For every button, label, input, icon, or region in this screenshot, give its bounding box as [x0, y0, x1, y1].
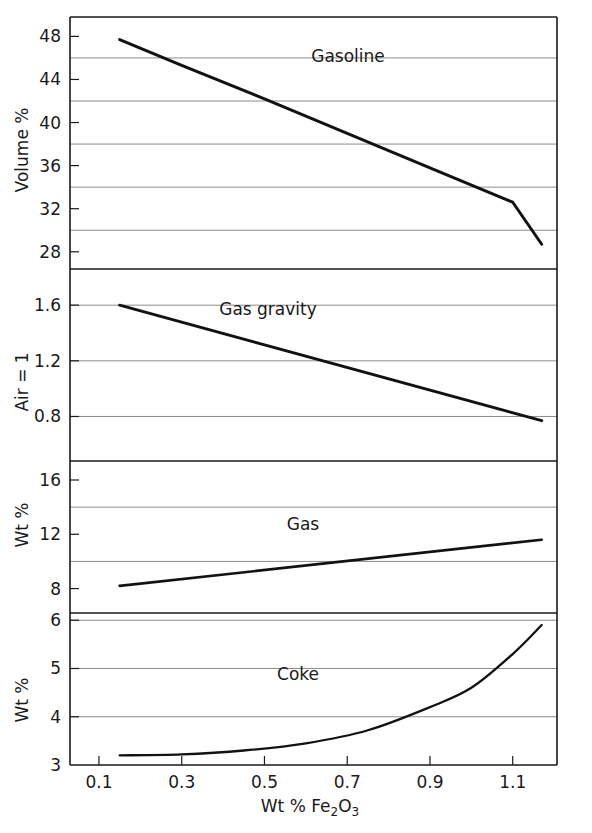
multi-panel-line-chart: 4844403632281.61.20.81612865430.10.30.50… — [0, 0, 592, 833]
y-tick-label: 12 — [39, 524, 61, 544]
y-tick-label: 40 — [39, 113, 61, 133]
y-tick-label: 32 — [39, 199, 61, 219]
y-tick-label: 28 — [39, 242, 61, 262]
y-tick-label: 36 — [39, 156, 61, 176]
y-axis-label-gasoline: Volume % — [12, 108, 32, 193]
x-tick-label: 0.1 — [85, 772, 112, 792]
y-axis-label-coke: Wt % — [12, 677, 32, 722]
x-axis-label-mid: O — [338, 796, 351, 816]
x-axis-label: Wt % Fe2O3 — [261, 796, 359, 819]
y-axis-label-gas: Wt % — [12, 502, 32, 547]
series-label-gasoline: Gasoline — [311, 46, 385, 66]
y-tick-label: 16 — [39, 470, 61, 490]
series-label-gas: Gas — [287, 514, 320, 534]
x-axis-label-group: Wt % Fe2O3 — [261, 796, 359, 819]
y-tick-label: 1.6 — [34, 295, 61, 315]
x-axis-label-prefix: Wt % Fe — [261, 796, 331, 816]
y-tick-label: 6 — [50, 610, 61, 630]
x-axis-label-subscript-2: 2 — [331, 805, 339, 819]
chart-figure: 4844403632281.61.20.81612865430.10.30.50… — [0, 0, 592, 833]
x-tick-label: 0.5 — [251, 772, 278, 792]
y-axis-label-gas-gravity: Air = 1 — [12, 352, 32, 411]
series-label-coke: Coke — [277, 664, 319, 684]
x-axis-label-subscript-3: 3 — [352, 805, 360, 819]
y-tick-label: 5 — [50, 658, 61, 678]
x-tick-label: 0.9 — [416, 772, 443, 792]
series-label-gas-gravity: Gas gravity — [219, 299, 317, 319]
y-tick-label: 44 — [39, 69, 61, 89]
y-tick-label: 8 — [50, 579, 61, 599]
y-tick-label: 1.2 — [34, 351, 61, 371]
y-tick-label: 0.8 — [34, 406, 61, 426]
x-tick-label: 1.1 — [499, 772, 526, 792]
x-tick-label: 0.3 — [168, 772, 195, 792]
y-tick-label: 4 — [50, 707, 61, 727]
y-tick-label: 3 — [50, 755, 61, 775]
y-tick-label: 48 — [39, 26, 61, 46]
x-tick-label: 0.7 — [334, 772, 361, 792]
